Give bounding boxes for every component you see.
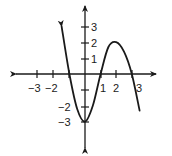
x-tick-label-neg2: −2: [45, 82, 58, 94]
x-tick-label-neg3: −3: [28, 82, 41, 94]
y-tick-label-3: 3: [91, 21, 97, 33]
x-tick-label-2: 2: [113, 82, 119, 94]
x-tick-label-3: 3: [136, 82, 142, 94]
y-tick-label-2: 2: [91, 37, 97, 49]
y-tick-label-neg2: −2: [58, 101, 71, 113]
y-tick-label-1: 1: [91, 53, 97, 65]
x-tick-label-1: 1: [100, 82, 106, 94]
polynomial-graph: −3 −2 1 2 3 3 2 1 −2 −3: [0, 0, 172, 156]
y-tick-label-neg3: −3: [58, 116, 71, 128]
